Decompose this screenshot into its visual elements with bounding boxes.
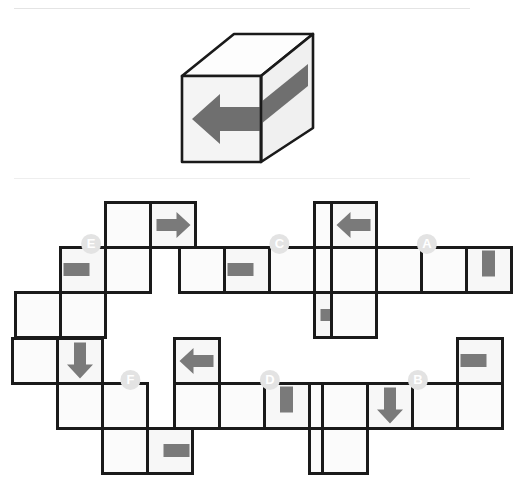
net-cell[interactable] xyxy=(220,384,265,429)
arrow-tail-bar xyxy=(461,354,487,367)
arrow-tail-bar xyxy=(228,263,254,276)
arrow-tail-bar xyxy=(482,251,495,277)
net-cell[interactable] xyxy=(323,384,368,429)
option-e[interactable]: E xyxy=(13,200,203,345)
reference-cube xyxy=(176,24,326,169)
option-badge-label: E xyxy=(87,236,96,251)
arrow-tail-bar xyxy=(64,263,90,276)
net-cell[interactable] xyxy=(106,248,151,293)
option-badge-label: C xyxy=(275,236,285,251)
option-badge-label: D xyxy=(265,372,274,387)
option-b[interactable]: B xyxy=(320,336,510,479)
arrow-tail-bar xyxy=(280,387,293,413)
net-cell[interactable] xyxy=(16,293,61,338)
net-cell[interactable] xyxy=(175,384,220,429)
net-cell[interactable] xyxy=(422,248,467,293)
net-cell[interactable] xyxy=(413,384,458,429)
net-cell[interactable] xyxy=(13,339,58,384)
net-cell[interactable] xyxy=(103,429,148,474)
option-badge-label: A xyxy=(422,236,432,251)
net-cell[interactable] xyxy=(103,384,148,429)
net-cell[interactable] xyxy=(458,384,503,429)
top-divider xyxy=(14,8,470,9)
option-badge-label: B xyxy=(413,372,422,387)
option-a[interactable]: A xyxy=(329,200,517,345)
net-cell[interactable] xyxy=(377,248,422,293)
net-cell[interactable] xyxy=(323,429,368,474)
net-cell[interactable] xyxy=(332,248,377,293)
net-cell[interactable] xyxy=(270,248,315,293)
net-cell[interactable] xyxy=(58,384,103,429)
net-cell[interactable] xyxy=(106,203,151,248)
net-cell[interactable] xyxy=(332,293,377,338)
middle-divider xyxy=(14,178,470,179)
net-cell[interactable] xyxy=(61,293,106,338)
net-cell[interactable] xyxy=(180,248,225,293)
option-badge-label: F xyxy=(126,372,134,387)
